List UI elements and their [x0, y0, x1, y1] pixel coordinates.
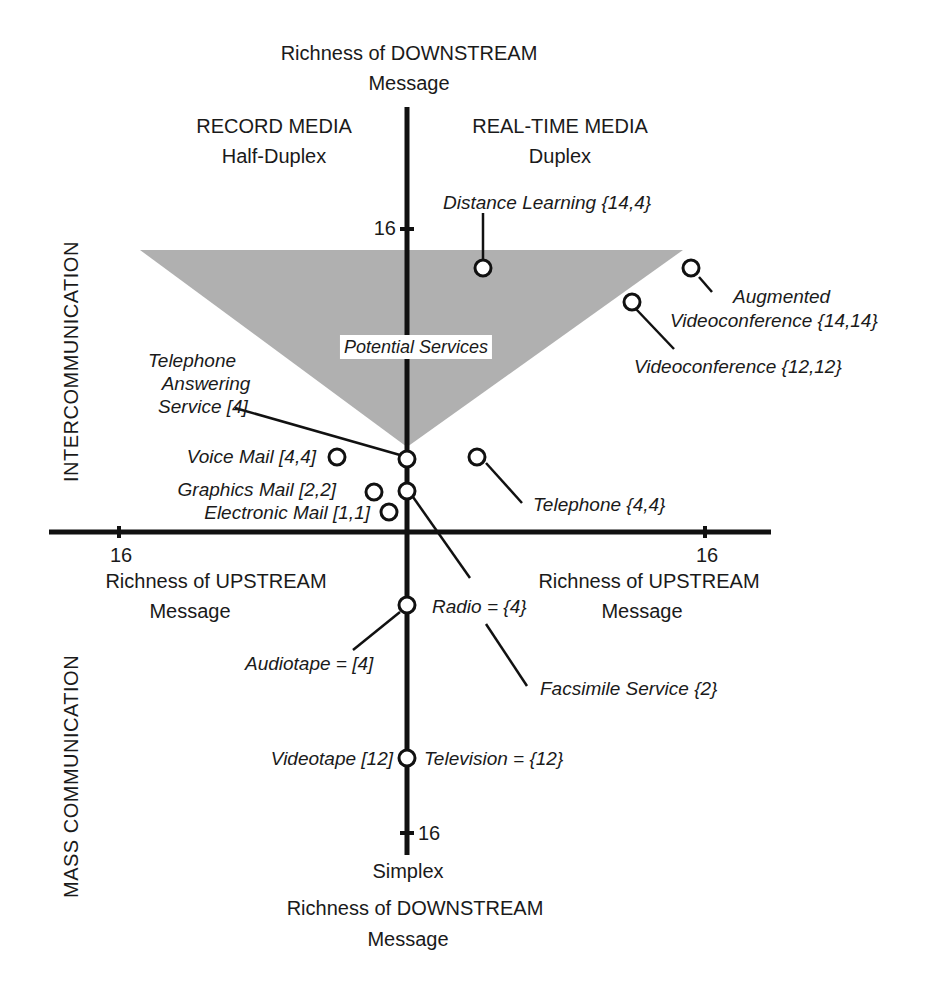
top-axis-title-line2: Message	[368, 72, 449, 94]
point-radio-audiotape[interactable]	[399, 597, 415, 613]
potential-services-label: Potential Services	[340, 335, 492, 359]
record-media-label: RECORD MEDIA	[196, 115, 352, 137]
point-augmented-videoconference[interactable]	[683, 260, 699, 276]
label-graphics-mail: Graphics Mail [2,2]	[178, 479, 336, 501]
point-distance-learning[interactable]	[475, 260, 491, 276]
point-telephone[interactable]	[469, 449, 485, 465]
tick-label-bottom: 16	[418, 822, 440, 844]
mass-communication-label: MASS COMMUNICATION	[60, 655, 83, 898]
label-telephone: Telephone {4,4}	[533, 494, 665, 516]
bottom-axis-title-line2: Message	[367, 928, 448, 950]
tick-label-right: 16	[696, 544, 718, 566]
right-axis-title-line2: Message	[601, 600, 682, 622]
bottom-axis-title-line1: Richness of DOWNSTREAM	[287, 897, 544, 919]
half-duplex-label: Half-Duplex	[222, 145, 326, 167]
label-tas-line3: Service [4]	[158, 396, 248, 418]
label-videotape: Videotape [12]	[271, 748, 393, 770]
point-graphics-mail[interactable]	[366, 484, 382, 500]
diagram-canvas	[0, 0, 948, 988]
left-axis-title-line1: Richness of UPSTREAM	[105, 570, 326, 592]
point-television-videotape[interactable]	[399, 750, 415, 766]
label-voice-mail: Voice Mail [4,4]	[187, 446, 316, 468]
label-augmented-line2: Videoconference {14,14}	[670, 310, 878, 332]
point-videoconference[interactable]	[624, 294, 640, 310]
label-tas-line1: Telephone	[148, 350, 236, 372]
label-videoconference: Videoconference {12,12}	[634, 356, 842, 378]
tick-label-left: 16	[110, 544, 132, 566]
point-voice-mail[interactable]	[329, 449, 345, 465]
tick-label-top: 16	[374, 217, 396, 239]
label-augmented-line1: Augmented	[733, 286, 830, 308]
label-television: Television = {12}	[424, 748, 563, 770]
left-axis-title-line2: Message	[149, 600, 230, 622]
point-electronic-mail[interactable]	[381, 504, 397, 520]
label-radio: Radio = {4}	[432, 596, 527, 618]
realtime-media-label: REAL-TIME MEDIA	[472, 115, 648, 137]
intercommunication-label: INTERCOMMUNICATION	[60, 241, 83, 482]
point-facsimile-service[interactable]	[399, 483, 415, 499]
label-tas-line2: Answering	[162, 373, 251, 395]
label-electronic-mail: Electronic Mail [1,1]	[204, 502, 370, 524]
simplex-label: Simplex	[372, 860, 443, 882]
right-axis-title-line1: Richness of UPSTREAM	[538, 570, 759, 592]
duplex-label: Duplex	[529, 145, 591, 167]
label-facsimile: Facsimile Service {2}	[540, 678, 717, 700]
label-distance-learning: Distance Learning {14,4}	[443, 192, 651, 214]
top-axis-title-line1: Richness of DOWNSTREAM	[281, 42, 538, 64]
label-audiotape: Audiotape = [4]	[245, 653, 373, 675]
point-telephone-answering-service[interactable]	[399, 451, 415, 467]
